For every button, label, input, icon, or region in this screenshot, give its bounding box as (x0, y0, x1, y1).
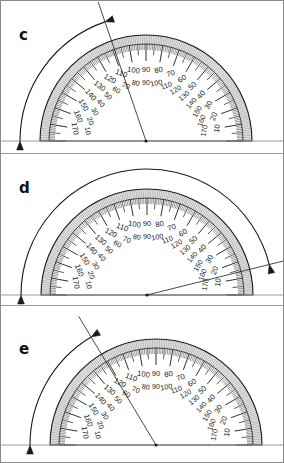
protractor-diagram-c: 1020304050607080901001101201301401501601… (1, 2, 283, 153)
figure-page: c 10203040506070809010011012013014015016… (0, 0, 284, 463)
svg-text:100: 100 (126, 65, 140, 76)
svg-text:20: 20 (208, 111, 219, 122)
svg-text:50: 50 (196, 384, 208, 396)
svg-text:20: 20 (218, 415, 229, 426)
svg-text:70: 70 (131, 384, 142, 395)
svg-text:20: 20 (85, 116, 96, 127)
svg-text:80: 80 (132, 232, 141, 242)
svg-text:70: 70 (165, 68, 176, 79)
svg-text:80: 80 (155, 219, 165, 229)
svg-text:10: 10 (84, 280, 94, 289)
svg-text:50: 50 (186, 80, 198, 92)
svg-text:20: 20 (209, 265, 220, 276)
svg-text:40: 40 (205, 393, 217, 405)
svg-text:170: 170 (70, 121, 81, 135)
svg-text:80: 80 (164, 369, 174, 379)
svg-text:20: 20 (86, 270, 97, 281)
svg-text:70: 70 (175, 372, 186, 383)
svg-text:80: 80 (131, 78, 140, 88)
svg-text:170: 170 (71, 275, 82, 289)
svg-text:30: 30 (202, 99, 214, 111)
svg-text:90: 90 (142, 78, 150, 87)
svg-text:40: 40 (196, 243, 208, 255)
svg-text:10: 10 (212, 124, 222, 134)
svg-text:70: 70 (122, 234, 133, 245)
svg-text:10: 10 (213, 278, 223, 288)
svg-text:170: 170 (80, 425, 91, 439)
svg-text:10: 10 (93, 430, 103, 439)
svg-text:80: 80 (141, 382, 150, 392)
svg-text:10: 10 (222, 428, 232, 438)
protractor-diagram-d: 1020304050607080901001101201301401501601… (1, 154, 283, 305)
protractor-diagram-e: 1020304050607080901001101201301401501601… (1, 306, 283, 463)
svg-text:80: 80 (154, 65, 164, 75)
svg-text:100: 100 (127, 219, 141, 230)
svg-text:30: 30 (212, 403, 224, 415)
panel-e: e 10203040506070809010011012013014015016… (1, 306, 283, 463)
svg-text:20: 20 (95, 420, 106, 431)
panel-d: d 10203040506070809010011012013014015016… (1, 154, 283, 305)
panel-c: c 10203040506070809010011012013014015016… (1, 2, 283, 153)
svg-text:90: 90 (152, 382, 160, 391)
svg-text:30: 30 (203, 253, 215, 265)
svg-text:90: 90 (143, 232, 151, 241)
svg-text:50: 50 (187, 234, 199, 246)
svg-text:90: 90 (142, 65, 150, 74)
svg-text:90: 90 (143, 219, 151, 228)
svg-text:40: 40 (195, 89, 207, 101)
svg-text:70: 70 (166, 222, 177, 233)
svg-text:90: 90 (152, 369, 160, 378)
svg-text:100: 100 (136, 369, 150, 380)
svg-text:10: 10 (83, 126, 93, 135)
